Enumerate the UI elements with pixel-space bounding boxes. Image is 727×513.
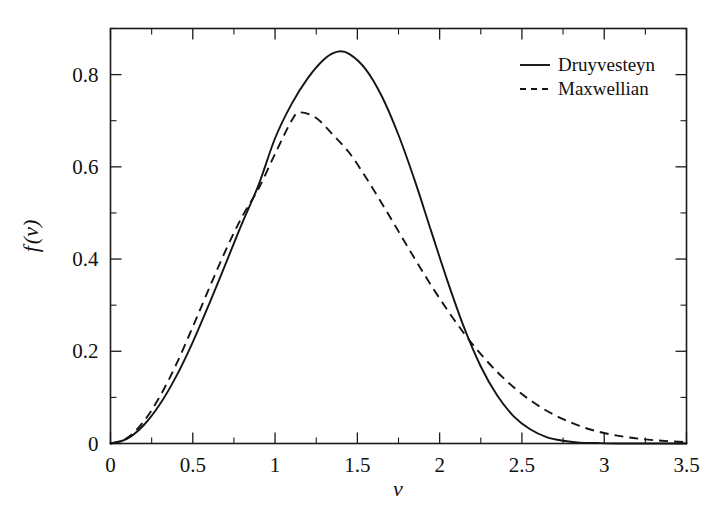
x-tick-label: 2 bbox=[434, 453, 445, 477]
figure-canvas: 00.511.522.533.5 00.20.40.60.8 v f(v) Dr… bbox=[0, 0, 727, 513]
x-tick-label: 1.5 bbox=[344, 453, 370, 477]
y-axis-label: f(v) bbox=[18, 220, 43, 253]
x-tick-label: 3 bbox=[599, 453, 610, 477]
y-tick-label: 0.8 bbox=[72, 63, 98, 87]
x-axis-tick-labels: 00.511.522.533.5 bbox=[105, 453, 699, 477]
series-curve-maxwellian bbox=[111, 112, 687, 443]
y-tick-label: 0.4 bbox=[72, 247, 99, 271]
y-axis-major-ticks bbox=[111, 75, 687, 444]
data-series-layer bbox=[111, 51, 687, 443]
legend-label: Druyvesteyn bbox=[558, 54, 656, 75]
x-tick-label: 3.5 bbox=[673, 453, 699, 477]
series-curve-druyvesteyn bbox=[111, 51, 687, 443]
x-tick-label: 2.5 bbox=[509, 453, 535, 477]
legend-label: Maxwellian bbox=[558, 78, 649, 99]
x-tick-label: 0 bbox=[105, 453, 116, 477]
y-axis-label-group: f(v) bbox=[18, 220, 43, 253]
y-tick-label: 0.2 bbox=[72, 339, 98, 363]
chart-legend: DruyvesteynMaxwellian bbox=[520, 54, 656, 99]
distribution-function-chart: 00.511.522.533.5 00.20.40.60.8 v f(v) Dr… bbox=[0, 0, 727, 513]
y-tick-label: 0.6 bbox=[72, 155, 98, 179]
y-tick-label: 0 bbox=[88, 432, 99, 456]
x-tick-label: 1 bbox=[270, 453, 281, 477]
y-axis-tick-labels: 00.20.40.60.8 bbox=[72, 63, 99, 456]
x-tick-label: 0.5 bbox=[180, 453, 206, 477]
x-axis-label: v bbox=[393, 476, 403, 501]
